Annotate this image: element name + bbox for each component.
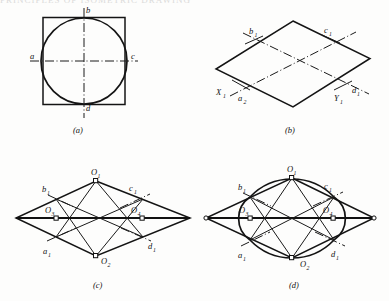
panel-b-isometric-axis-2 — [243, 33, 369, 94]
panel-a-caption: (a) — [73, 125, 83, 135]
panel-d-label-b1-sub: 1 — [243, 188, 246, 194]
panel-c-label-b1-sub: 1 — [47, 190, 50, 196]
panel-d-label-b1: b — [238, 182, 242, 192]
figure-root: PRINCIPLES OF ISOMETRIC DRAWING a b c d … — [0, 0, 389, 301]
panel-c-label-O4-sub: 4 — [138, 211, 141, 217]
panel-b-label-b1-sub: 1 — [255, 32, 258, 38]
panel-d-node-left-vertex — [204, 216, 208, 220]
panel-d-label-O3: O — [239, 205, 245, 215]
panel-b-label-c1: c — [324, 25, 328, 35]
panel-c-label-b1: b — [42, 184, 46, 194]
panel-a-label-b: b — [86, 5, 90, 15]
panel-b-caption: (b) — [285, 125, 295, 135]
panel-b-label-X1-sub: 1 — [223, 93, 226, 99]
panel-c-node-O2 — [94, 254, 98, 258]
panel-a-label-a: a — [30, 51, 34, 61]
panel-c: O 1 O 2 O 3 O 4 b 1 c 1 a 1 d 1 (c) — [16, 167, 190, 290]
panel-d-label-O1: O — [287, 164, 293, 174]
panel-c-label-O1: O — [91, 167, 97, 177]
panel-d-label-a1-sub: 1 — [243, 256, 246, 262]
panel-d-node-O3 — [248, 216, 252, 220]
panel-b: b 1 c 1 X 1 a 2 Y 1 d 1 (b) — [215, 21, 370, 135]
panel-c-label-O2: O — [101, 256, 107, 266]
panel-d-label-c1: c — [324, 181, 328, 191]
panel-d-node-O4 — [331, 216, 335, 220]
panel-d-label-O1-sub: 1 — [294, 170, 297, 176]
panel-c-label-O3: O — [45, 205, 51, 215]
panel-d-label-O4: O — [323, 205, 329, 215]
panel-d: O 1 O 2 O 3 O 4 b 1 c 1 a 1 d 1 (d) — [204, 164, 376, 290]
panel-b-label-X1: X — [215, 87, 222, 97]
panel-c-label-d1-sub: 1 — [153, 247, 156, 253]
panel-a-label-c: c — [131, 51, 135, 61]
panel-d-label-d1-sub: 1 — [336, 255, 339, 261]
panel-c-label-c1-sub: 1 — [134, 189, 137, 195]
panel-c-label-a1-sub: 1 — [48, 252, 51, 258]
figure-canvas: a b c d (a) b 1 c 1 X 1 a — [0, 0, 389, 301]
panel-a: a b c d (a) — [30, 5, 138, 135]
panel-d-label-O3-sub: 3 — [245, 211, 249, 217]
panel-d-tick-a1 — [241, 232, 270, 246]
panel-d-label-O4-sub: 4 — [330, 211, 333, 217]
panel-c-node-O4 — [140, 216, 144, 220]
panel-d-caption: (d) — [289, 280, 299, 290]
panel-d-arc-top — [250, 179, 334, 197]
panel-c-caption: (c) — [93, 280, 103, 290]
panel-c-label-O2-sub: 2 — [108, 262, 111, 268]
panel-b-label-b1: b — [249, 26, 253, 36]
panel-d-tick-c1 — [313, 192, 343, 206]
panel-c-node-O3 — [54, 216, 58, 220]
panel-c-label-c1: c — [129, 183, 133, 193]
panel-d-label-O2-sub: 2 — [307, 265, 310, 271]
panel-d-label-a1: a — [238, 250, 242, 260]
panel-b-label-Y1-sub: 1 — [340, 99, 343, 105]
panel-b-label-d1-sub: 1 — [357, 91, 360, 97]
panel-b-label-a2-sub: 2 — [244, 99, 247, 105]
panel-c-label-O4: O — [131, 205, 137, 215]
panel-d-label-c1-sub: 1 — [329, 187, 332, 193]
panel-b-label-c1-sub: 1 — [329, 31, 332, 37]
panel-d-node-O2 — [290, 256, 294, 260]
panel-c-node-O1 — [94, 179, 98, 183]
panel-b-label-a2: a — [238, 93, 242, 103]
panel-d-node-right-vertex — [372, 216, 376, 220]
panel-c-label-a1: a — [43, 246, 47, 256]
panel-d-label-O2: O — [300, 259, 306, 269]
panel-c-label-O1-sub: 1 — [98, 173, 101, 179]
panel-b-tick-d1 — [334, 81, 352, 90]
panel-d-node-O1 — [290, 176, 294, 180]
panel-c-label-O3-sub: 3 — [51, 211, 55, 217]
